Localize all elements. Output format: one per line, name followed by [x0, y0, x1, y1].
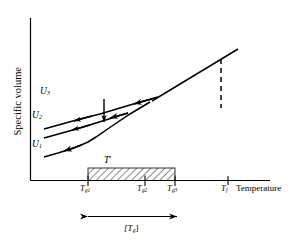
figure-container: Specific volume U3 U2 U1 Tg1 Tg2 Tg3 Tf … — [0, 0, 301, 243]
x-axis-label: Temperature — [236, 184, 281, 193]
curve-u2-arrow-left — [72, 125, 90, 130]
plot-svg — [0, 0, 301, 243]
x-tick-label-tf: Tf — [221, 184, 227, 193]
liquid-equilibrium-line — [152, 49, 238, 101]
t-prime-label: T′ — [104, 156, 111, 166]
curve-label-u3: U3 — [40, 87, 50, 97]
curve-label-u2: U2 — [32, 111, 42, 121]
x-tick-label-tg1: Tg1 — [80, 184, 90, 193]
x-tick-label-tg3: Tg3 — [167, 184, 177, 193]
x-tick-label-tg2: Tg2 — [137, 184, 147, 193]
tg-range-label: [Tg] — [124, 224, 139, 234]
t-prime-hatched-band — [88, 168, 175, 181]
curve-label-u1: U1 — [32, 140, 42, 150]
y-axis-label: Specific volume — [13, 53, 24, 149]
curve-u1-arrow — [64, 145, 82, 151]
curve-u3-arrow-left — [74, 116, 92, 121]
curve-u1 — [44, 102, 150, 157]
